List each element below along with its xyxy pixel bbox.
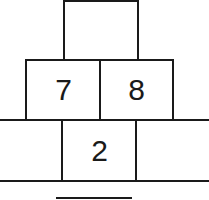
pyramid-middle-cell-right[interactable]: 8 (99, 59, 174, 121)
pyramid-bottom-cell-right[interactable] (135, 119, 209, 182)
pyramid-bottom-cell-left[interactable] (0, 119, 64, 182)
answer-line (56, 197, 132, 199)
pyramid-top-cell[interactable] (63, 0, 139, 61)
pyramid-middle-cell-left[interactable]: 7 (25, 59, 102, 121)
pyramid-bottom-cell-middle[interactable]: 2 (61, 119, 138, 182)
